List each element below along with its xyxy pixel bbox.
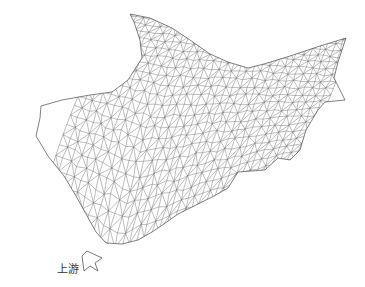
terrain-mesh-figure	[0, 0, 365, 287]
outline-arrow-up-right-icon	[82, 251, 102, 271]
mesh-outline	[36, 14, 346, 244]
upstream-label: 上游	[57, 264, 79, 275]
triangulated-mesh	[42, 10, 352, 248]
